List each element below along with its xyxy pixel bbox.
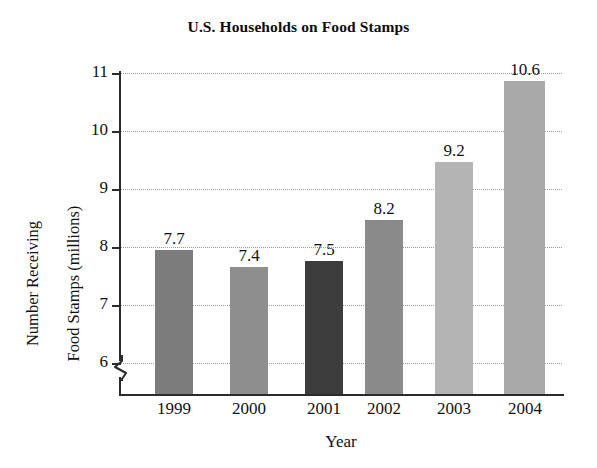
bar-2002 xyxy=(365,220,403,395)
bar-2003 xyxy=(435,162,473,395)
axis-break-icon xyxy=(110,355,134,381)
x-tick-label-1999: 1999 xyxy=(134,399,214,419)
x-axis-title: Year xyxy=(120,432,562,452)
x-tick-label-2000: 2000 xyxy=(209,399,289,419)
x-axis-line xyxy=(119,394,564,396)
bar-1999 xyxy=(155,250,193,395)
bar-2000 xyxy=(230,267,268,395)
bar-chart: U.S. Households on Food Stamps 7.7 7.4 7… xyxy=(0,0,597,468)
x-tick-label-2002: 2002 xyxy=(344,399,424,419)
y-axis-title-line1: Number Receiving xyxy=(23,124,44,444)
y-axis-title: Number Receiving Food Stamps (millions) xyxy=(2,124,105,444)
bar-value-1999: 7.7 xyxy=(134,229,214,249)
bar-value-2001: 7.5 xyxy=(284,240,364,260)
y-axis-title-line2: Food Stamps (millions) xyxy=(64,124,85,444)
chart-title: U.S. Households on Food Stamps xyxy=(0,18,597,36)
y-axis-line xyxy=(119,71,121,361)
y-tick-6 xyxy=(112,363,121,365)
x-tick-label-2003: 2003 xyxy=(414,399,494,419)
bar-value-2004: 10.6 xyxy=(485,60,565,80)
y-tick-10 xyxy=(112,131,121,133)
y-tick-9 xyxy=(112,189,121,191)
bar-value-2000: 7.4 xyxy=(209,246,289,266)
y-tick-8 xyxy=(112,247,121,249)
y-tick-7 xyxy=(112,305,121,307)
bar-2004 xyxy=(504,81,545,395)
y-tick-label-11: 11 xyxy=(86,62,108,82)
bar-2001 xyxy=(305,261,343,395)
y-tick-11 xyxy=(112,73,121,75)
x-tick-label-2004: 2004 xyxy=(485,399,565,419)
bar-value-2002: 8.2 xyxy=(344,199,424,219)
bar-value-2003: 9.2 xyxy=(414,141,494,161)
